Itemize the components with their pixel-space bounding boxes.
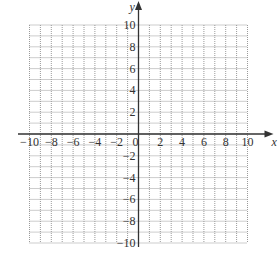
y-tick-label: 10 <box>124 18 136 32</box>
x-tick-label: 6 <box>201 135 207 149</box>
x-tick-label: 8 <box>223 135 229 149</box>
y-tick-label: 2 <box>130 105 136 119</box>
y-tick-label: −4 <box>123 171 136 185</box>
y-tick-label: −6 <box>123 192 136 206</box>
x-tick-label: 10 <box>242 135 254 149</box>
tick-labels: −10−8−6−4−20246810108642−2−4−6−8−10xy <box>20 0 277 250</box>
x-tick-label: −10 <box>20 135 39 149</box>
y-tick-label: −8 <box>123 214 136 228</box>
x-tick-label: 2 <box>157 135 163 149</box>
y-tick-label: 4 <box>130 83 136 97</box>
y-tick-label: −10 <box>117 236 136 250</box>
x-tick-label: 0 <box>133 135 139 149</box>
x-tick-label: −8 <box>45 135 58 149</box>
y-tick-label: −2 <box>123 149 136 163</box>
x-tick-label: −4 <box>89 135 102 149</box>
y-tick-label: 6 <box>130 62 136 76</box>
x-tick-label: 4 <box>179 135 185 149</box>
y-tick-label: 8 <box>130 40 136 54</box>
x-tick-label: −6 <box>67 135 80 149</box>
y-axis-label: y <box>129 0 136 14</box>
y-axis-arrow-icon <box>135 1 142 10</box>
x-tick-label: −2 <box>110 135 123 149</box>
x-axis-label: x <box>271 135 278 149</box>
coordinate-grid: −10−8−6−4−20246810108642−2−4−6−8−10xy <box>0 0 278 260</box>
